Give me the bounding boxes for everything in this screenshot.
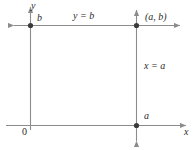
y-axis-label: y bbox=[31, 1, 35, 11]
diagram-canvas bbox=[0, 0, 195, 150]
point-b-on-y-axis bbox=[28, 23, 33, 28]
point-a-b bbox=[134, 23, 139, 28]
b-tick-label: b bbox=[37, 13, 42, 23]
a-tick-label: a bbox=[144, 111, 149, 121]
coordinate-plane-diagram: y x 0 b a y = b x = a (a, b) bbox=[0, 0, 195, 150]
horizontal-line-equation-label: y = b bbox=[73, 11, 94, 21]
origin-label: 0 bbox=[22, 127, 27, 137]
point-a-on-x-axis bbox=[134, 123, 139, 128]
intersection-point-label: (a, b) bbox=[145, 12, 167, 22]
vertical-line-equation-label: x = a bbox=[144, 61, 165, 71]
x-axis-label: x bbox=[184, 127, 188, 137]
